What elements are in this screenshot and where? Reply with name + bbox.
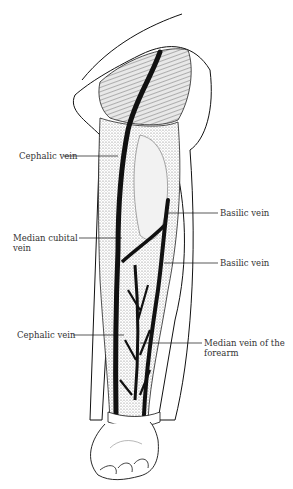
label-median-vein-forearm: Median vein of the forearm	[204, 338, 285, 358]
label-median-forearm-line1: Median vein of the	[204, 338, 285, 348]
hand-outline	[91, 422, 159, 480]
label-basilic-vein-lower: Basilic vein	[220, 258, 269, 268]
label-median-cubital-line2: vein	[13, 243, 78, 253]
label-cephalic-vein-upper: Cephalic vein	[19, 151, 77, 161]
label-basilic-vein-upper: Basilic vein	[220, 208, 269, 218]
label-cephalic-vein-lower: Cephalic vein	[17, 330, 75, 340]
label-median-forearm-line2: forearm	[204, 348, 285, 358]
label-median-cubital-line1: Median cubital	[13, 233, 78, 243]
label-median-cubital-vein: Median cubital vein	[13, 233, 78, 253]
